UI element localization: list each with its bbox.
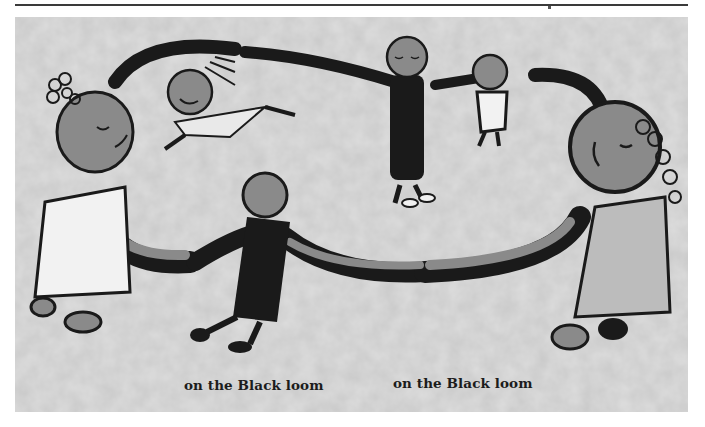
header-rule [15,4,688,6]
caption-right: on the Black loom [393,375,533,391]
header-rule-mark [548,6,551,9]
illustration-artwork [15,17,688,412]
dancing-children-illustration [15,17,688,412]
caption-left: on the Black loom [184,377,324,393]
